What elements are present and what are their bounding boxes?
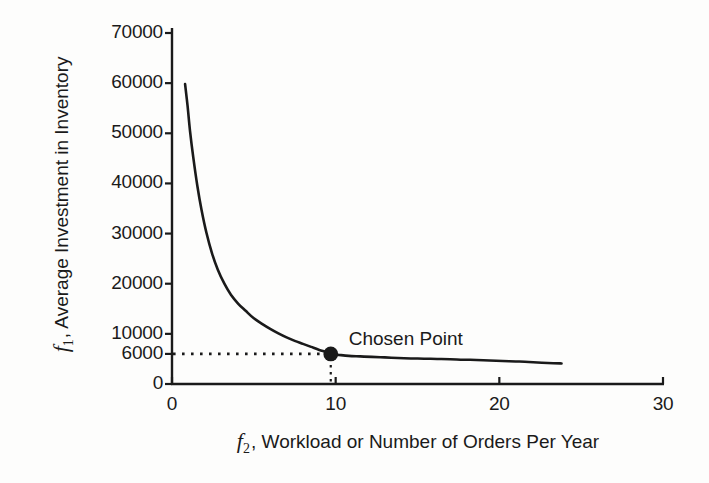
x-tick-label: 20 xyxy=(459,393,539,415)
chosen-point-label: Chosen Point xyxy=(349,328,463,350)
x-axis-title-text: , Workload or Number of Orders Per Year xyxy=(251,431,599,452)
x-tick-label: 30 xyxy=(623,393,703,415)
y-axis-title-text: , Average Investment in Inventory xyxy=(51,57,72,339)
y-axis-title-variable: f xyxy=(48,346,73,352)
x-tick-label: 10 xyxy=(296,393,376,415)
y-axis-title-subscript: 1 xyxy=(60,338,75,346)
x-axis-title: f2, Workload or Number of Orders Per Yea… xyxy=(172,428,664,457)
chosen-point-guides xyxy=(173,354,331,384)
y-axis-title: f1, Average Investment in Inventory xyxy=(48,24,77,384)
chart-figure: 0600010000200003000040000500006000070000… xyxy=(0,0,709,483)
pareto-curve xyxy=(185,84,561,363)
chosen-point-marker[interactable] xyxy=(323,347,338,362)
x-tick-label: 0 xyxy=(132,393,212,415)
x-axis-title-subscript: 2 xyxy=(243,441,251,456)
